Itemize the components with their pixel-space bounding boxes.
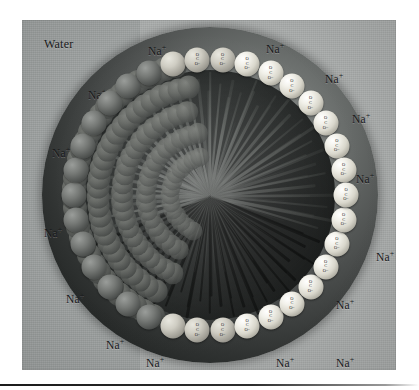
head-group-sphere [137,304,162,329]
head-group-sphere [324,133,349,158]
label-sodium-ion: Na+ [106,338,125,351]
label-sodium-ion: Na+ [52,146,71,159]
head-group-sphere [185,318,210,343]
head-group-sphere [331,207,356,232]
head-group-sphere [160,313,185,338]
bottom-rule [0,384,419,386]
label-sodium-ion: Na+ [276,356,295,369]
label-sodium-ion: Na+ [44,226,63,239]
illustration-panel: OCO−OCO−OCO−OCO−OCO−OCO−OCO−OCO−OCO−OCO−… [22,20,396,370]
figure-canvas: OCO−OCO−OCO−OCO−OCO−OCO−OCO−OCO−OCO−OCO−… [0,0,419,390]
label-sodium-ion: Na+ [336,298,355,311]
head-group-sphere [160,52,185,77]
head-group-sphere [64,158,89,183]
label-sodium-ion: Na+ [266,42,285,55]
head-group-sphere [313,254,338,279]
head-group-sphere [185,47,210,72]
head-group-sphere [235,52,260,77]
label-sodium-ion: Na+ [336,356,355,369]
head-group-sphere [334,183,359,208]
label-sodium-ion: Na+ [376,250,395,263]
label-sodium-ion: Na+ [146,356,165,369]
head-group-sphere [210,47,235,72]
label-sodium-ion: Na+ [352,112,371,125]
label-sodium-ion: Na+ [66,292,85,305]
head-group-sphere [235,313,260,338]
head-group-sphere [71,232,96,257]
head-group-sphere [64,207,89,232]
label-sodium-ion: Na+ [356,172,375,185]
label-sodium-ion: Na+ [325,72,344,85]
label-water: Water [44,38,73,50]
head-group-sphere [137,61,162,86]
head-group-sphere [71,133,96,158]
head-group-sphere [331,158,356,183]
head-group-sphere [62,183,87,208]
head-group-sphere [313,111,338,136]
head-group-sphere [324,232,349,257]
head-group-sphere [210,318,235,343]
